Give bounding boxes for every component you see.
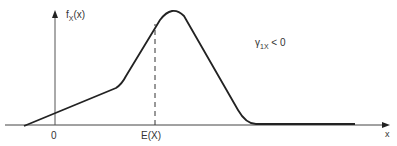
x-axis-arrow-icon — [382, 122, 390, 128]
skewness-annotation: γ1X < 0 — [255, 37, 286, 50]
diagram-graphics — [0, 0, 397, 146]
x-axis-label: x — [385, 129, 390, 139]
mean-tick-label: E(X) — [141, 130, 161, 141]
zero-tick-label: 0 — [51, 130, 57, 141]
y-axis-label: fX(x) — [66, 9, 85, 22]
y-axis-arrow-icon — [52, 10, 58, 18]
density-diagram: fX(x) γ1X < 0 0 E(X) x — [0, 0, 397, 146]
density-curve — [24, 11, 355, 126]
